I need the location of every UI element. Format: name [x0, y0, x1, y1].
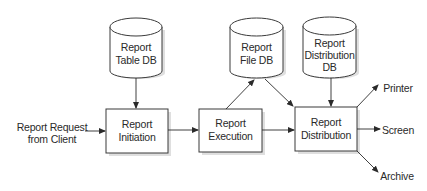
input-label-line: Report Request [17, 121, 88, 133]
process-label-line: Execution [208, 130, 253, 142]
process-report-execution: Report Execution [199, 109, 265, 155]
report-flow-diagram: Report Table DB Report File DB Report Di… [0, 0, 427, 191]
db-label-line: Report [121, 41, 152, 53]
db-label-line: Report [314, 37, 345, 49]
db-report-file: Report File DB [230, 18, 286, 79]
input-report-request: Report Request from Client [17, 121, 88, 145]
output-archive-label: Archive [380, 170, 414, 182]
arrow-filedb-to-distribution [265, 79, 293, 106]
process-report-initiation: Report Initiation [106, 109, 171, 156]
db-label-line: Table DB [115, 54, 156, 66]
db-label-line: DB [322, 61, 336, 73]
process-label-line: Distribution [301, 129, 351, 141]
db-label-line: File DB [240, 54, 273, 66]
db-report-table: Report Table DB [110, 18, 165, 79]
db-report-distribution: Report Distribution DB [303, 17, 359, 79]
arrow-distribution-to-archive [357, 151, 378, 172]
process-label-line: Report [215, 117, 246, 129]
db-label-line: Distribution [304, 49, 354, 61]
output-screen-label: Screen [382, 124, 414, 136]
output-printer-label: Printer [383, 82, 413, 94]
input-label-line: from Client [28, 133, 77, 145]
arrow-distribution-to-printer [357, 85, 378, 107]
db-label-line: Report [241, 41, 272, 53]
process-label-line: Initiation [118, 131, 155, 143]
arrow-execution-to-filedb [226, 80, 254, 109]
process-report-distribution: Report Distribution [295, 107, 360, 154]
process-label-line: Report [311, 116, 342, 128]
process-label-line: Report [122, 118, 153, 130]
